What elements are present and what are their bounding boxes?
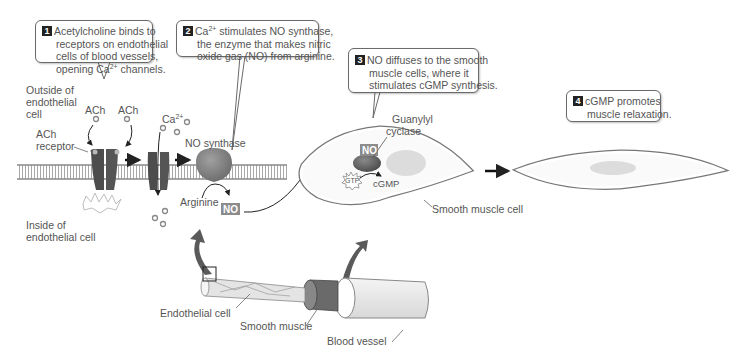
label-guanylyl-cyclase: Guanylyl cyclase xyxy=(386,113,433,137)
callout-step-4: 4cGMP promotes muscle relaxation. xyxy=(566,90,661,122)
ach-molecule-icon xyxy=(125,117,130,122)
label-no-in-muscle: NO xyxy=(362,145,377,157)
step-number-badge: 1 xyxy=(42,26,52,36)
ach-molecule-icon xyxy=(94,117,99,122)
step-number-badge: 3 xyxy=(355,55,365,65)
callout-step-2: 2Ca2+ stimulates NO synthase, the enzyme… xyxy=(176,20,319,57)
label-cgmp: cGMP xyxy=(373,178,399,190)
label-inside-cell: Inside of endothelial cell xyxy=(26,219,95,243)
calcium-ion-icon xyxy=(163,209,168,214)
label-outside-cell: Outside of endothelial cell xyxy=(26,84,77,120)
blood-vessel-icon xyxy=(201,267,429,318)
label-endothelial-cell: Endothelial cell xyxy=(160,307,231,319)
label-gtp: GTP xyxy=(345,176,359,185)
label-no-product: NO xyxy=(223,204,238,216)
label-ach-1: ACh xyxy=(85,104,105,116)
zoom-arrow-muscle-icon xyxy=(342,240,368,284)
label-smooth-muscle-cell: Smooth muscle cell xyxy=(432,203,523,215)
label-blood-vessel: Blood vessel xyxy=(327,335,387,347)
zoom-arrow-endothelium-icon xyxy=(190,229,212,275)
calcium-ion-icon xyxy=(175,130,180,135)
callout-step-1: 1Acetylcholine binds to receptors on end… xyxy=(35,20,153,63)
calcium-ion-icon xyxy=(185,120,190,125)
label-ach-receptor: ACh receptor xyxy=(36,128,75,152)
smooth-muscle-cell-relaxed xyxy=(518,152,722,187)
step-number-badge: 2 xyxy=(183,26,193,36)
calcium-ion-icon xyxy=(161,126,166,131)
calcium-ion-icon xyxy=(161,222,166,227)
label-ach-2: ACh xyxy=(118,104,138,116)
nucleus-icon xyxy=(386,150,426,176)
ach-receptor-icon xyxy=(83,149,121,213)
label-arginine: Arginine xyxy=(180,196,219,208)
calcium-ion-icon xyxy=(153,216,158,221)
step-number-badge: 4 xyxy=(573,96,583,106)
callout-step-3: 3NO diffuses to the smooth muscle cells,… xyxy=(348,48,479,93)
label-no-synthase: NO synthase xyxy=(185,137,246,149)
label-smooth-muscle: Smooth muscle xyxy=(240,320,312,332)
label-calcium: Ca2+ xyxy=(162,113,183,125)
nucleus-icon xyxy=(590,161,636,175)
